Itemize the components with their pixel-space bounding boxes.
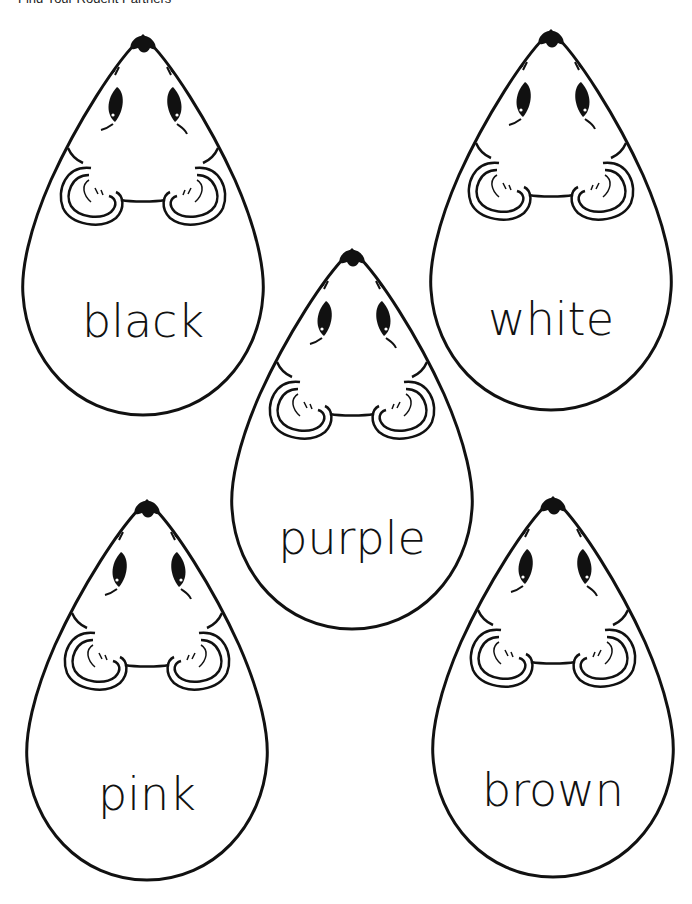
mouse-card-brown: brown — [433, 498, 674, 877]
mouse-card-white: white — [431, 31, 672, 410]
worksheet: black white purple pink brown — [0, 0, 692, 904]
mouse-card-black: black — [23, 36, 264, 415]
mouse-icon — [23, 36, 264, 415]
mouse-label: brown — [482, 763, 624, 817]
mouse-label: purple — [278, 511, 426, 565]
mouse-card-pink: pink — [27, 501, 268, 880]
mouse-label: pink — [98, 767, 196, 821]
mouse-label: white — [488, 292, 614, 346]
mouse-label: black — [82, 294, 204, 348]
mouse-icon — [27, 501, 268, 880]
mouse-icon — [431, 31, 672, 410]
mouse-icon — [433, 498, 674, 877]
